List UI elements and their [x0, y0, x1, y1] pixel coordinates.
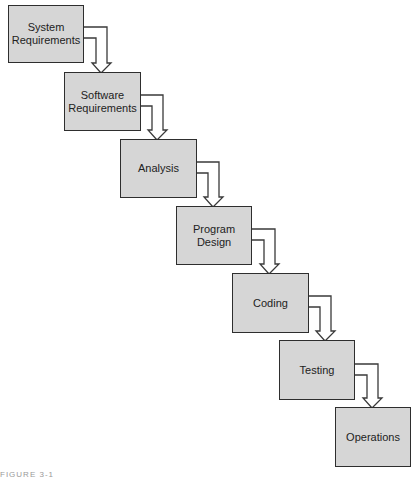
stage-coding: Coding: [232, 273, 309, 333]
stage-system-requirements: System Requirements: [8, 5, 84, 63]
stage-label: Testing: [300, 364, 335, 377]
stage-program-design: Program Design: [176, 206, 252, 265]
stage-label: Software Requirements: [68, 89, 136, 115]
stage-testing: Testing: [279, 340, 355, 400]
stage-label: Analysis: [138, 162, 179, 175]
stage-label: Program Design: [193, 223, 235, 249]
figure-caption: FIGURE 3-1: [0, 470, 54, 479]
stage-label: Coding: [253, 297, 288, 310]
stage-analysis: Analysis: [120, 139, 197, 198]
stage-operations: Operations: [335, 407, 411, 467]
stage-label: System Requirements: [12, 21, 80, 47]
stage-label: Operations: [346, 431, 400, 444]
stage-software-requirements: Software Requirements: [64, 72, 141, 131]
